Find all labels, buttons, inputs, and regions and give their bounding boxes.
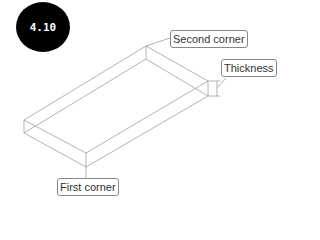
thickness-label: Thickness bbox=[221, 59, 277, 77]
box-top-face bbox=[24, 46, 208, 153]
second-corner-label: Second corner bbox=[170, 30, 248, 48]
first-corner-label: First corner bbox=[57, 178, 119, 196]
